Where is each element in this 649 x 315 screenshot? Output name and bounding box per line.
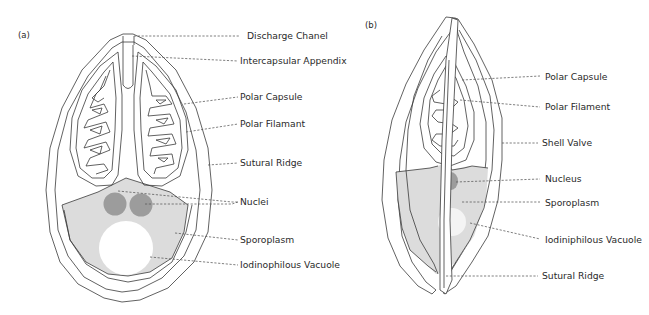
label-sutural-ridge-b: Sutural Ridge — [542, 270, 605, 281]
nucleus-left — [104, 193, 127, 216]
label-shell-valve: Shell Valve — [542, 137, 593, 148]
label-sutural-ridge-a: Sutural Ridge — [240, 157, 303, 168]
label-intercapsular-appendix: Intercapsular Appendix — [240, 55, 347, 66]
label-polar-capsule-a: Polar Capsule — [240, 91, 303, 102]
panel-b: (b) — [365, 17, 642, 294]
label-nuclei: Nuclei — [240, 196, 269, 207]
panel-a-label: (a) — [18, 30, 30, 40]
label-iodiniphilous-vacuole: Iodiniphilous Vacuole — [545, 234, 642, 245]
label-sporoplasm-a: Sporoplasm — [240, 234, 294, 245]
iodinophilous-vacuole-a — [99, 221, 153, 275]
label-iodinophilous-vacuole: Iodinophilous Vacuole — [240, 259, 340, 270]
nucleus-right — [130, 194, 153, 217]
panel-b-label: (b) — [365, 20, 377, 30]
label-polar-capsule-b: Polar Capsule — [545, 71, 608, 82]
label-nucleus: Nucleus — [545, 173, 582, 184]
label-sporoplasm-b: Sporoplasm — [545, 197, 599, 208]
label-polar-filamant: Polar Filamant — [240, 118, 305, 129]
label-polar-filament-b: Polar Filament — [545, 101, 610, 112]
panel-a: (a) — [18, 30, 347, 302]
myxospore-diagram: (a) — [0, 0, 649, 315]
label-discharge-chanel: Discharge Chanel — [247, 30, 328, 41]
